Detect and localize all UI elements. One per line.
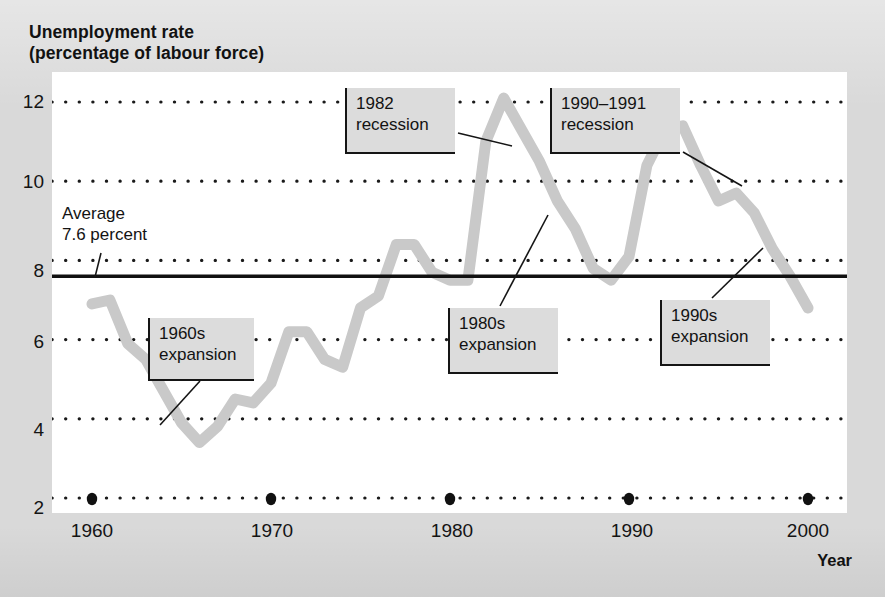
- x-tick-1990: 1990: [611, 521, 653, 540]
- callout-1990-1991-recession: 1990–1991 recession: [550, 88, 680, 154]
- y-tick-8: 8: [10, 261, 44, 280]
- y-tick-10: 10: [10, 172, 44, 191]
- average-annotation: Average 7.6 percent: [62, 203, 147, 245]
- x-axis-dot-1990: [624, 493, 634, 505]
- callout-1980s-expansion: 1980s expansion: [448, 308, 558, 374]
- x-axis-dot-1980: [445, 493, 455, 505]
- callout-1960s-expansion: 1960s expansion: [148, 318, 254, 381]
- x-axis-dot-1970: [266, 493, 276, 505]
- x-axis-dot-1960: [87, 493, 97, 505]
- callout-1990s-expansion: 1990s expansion: [660, 300, 770, 366]
- y-tick-6: 6: [10, 332, 44, 351]
- x-tick-1970: 1970: [251, 521, 293, 540]
- x-tick-1960: 1960: [71, 521, 113, 540]
- y-tick-12: 12: [10, 92, 44, 111]
- y-tick-4: 4: [10, 420, 44, 439]
- chart-title: Unemployment rate (percentage of labour …: [29, 22, 264, 63]
- x-tick-2000: 2000: [787, 521, 829, 540]
- x-axis-title: Year: [817, 551, 852, 570]
- x-tick-1980: 1980: [431, 521, 473, 540]
- y-tick-2: 2: [10, 498, 44, 517]
- x-axis-dot-2000: [803, 493, 813, 505]
- unemployment-rate-figure: Unemployment rate (percentage of labour …: [0, 0, 885, 597]
- callout-1982-recession: 1982 recession: [345, 88, 455, 154]
